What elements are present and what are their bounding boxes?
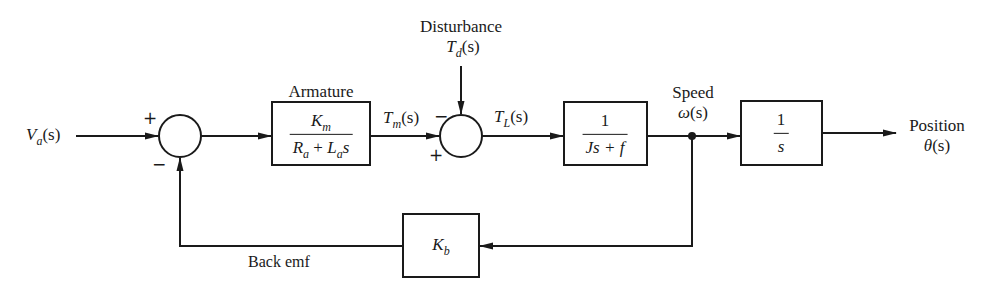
disturbance-signal-label: Td(s) <box>446 38 479 55</box>
km-symbol: K <box>311 111 322 130</box>
fraction-bar <box>290 133 353 134</box>
armature-label: Armature <box>288 83 353 100</box>
fraction-bar <box>583 133 628 134</box>
speed-signal-label: ω(s) <box>678 104 708 121</box>
integrator-denominator: s <box>775 137 788 157</box>
td-arg: (s) <box>462 37 480 56</box>
armature-transfer-function: Km Ra + Las <box>290 111 353 157</box>
disturbance-label: Disturbance <box>420 18 502 35</box>
s-variable: s <box>343 138 350 157</box>
integrator-transfer-function: 1 s <box>774 110 789 156</box>
ra-subscript: a <box>303 147 309 161</box>
la-symbol: L <box>327 138 336 157</box>
input-label: Va(s) <box>26 126 60 143</box>
sj1-minus-sign: − <box>152 156 166 173</box>
summing-junction-1 <box>159 115 201 157</box>
plus-operator: + <box>309 138 327 157</box>
tl-arg: (s) <box>510 107 528 126</box>
diagram-lines <box>0 0 998 293</box>
back-emf-arrow <box>180 158 403 246</box>
km-subscript: m <box>322 120 331 134</box>
input-symbol: V <box>26 125 36 144</box>
input-arg: (s) <box>42 125 60 144</box>
sj1-plus-sign: + <box>143 110 157 127</box>
load-numerator: 1 <box>598 111 613 131</box>
tl-subscript: L <box>503 116 510 130</box>
tm-subscript: m <box>392 117 401 131</box>
tm-arg: (s) <box>401 108 419 127</box>
tl-signal-label: TL(s) <box>494 108 528 125</box>
kb-subscript: b <box>444 244 450 258</box>
sj2-plus-sign: + <box>429 147 443 164</box>
armature-denominator: Ra + Las <box>290 138 353 158</box>
sj2-minus-sign: − <box>434 108 448 125</box>
armature-numerator: Km <box>308 111 334 131</box>
back-emf-label: Back emf <box>248 254 310 270</box>
omega-arg: (s) <box>690 103 708 122</box>
output-label: Position <box>909 117 965 134</box>
integrator-numerator: 1 <box>774 110 789 130</box>
speed-label: Speed <box>672 84 714 101</box>
kb-symbol: K <box>432 235 443 254</box>
load-denominator: Js + f <box>583 138 628 158</box>
load-transfer-function: 1 Js + f <box>583 111 628 157</box>
input-subscript: a <box>36 134 42 148</box>
td-subscript: d <box>456 46 462 60</box>
ra-symbol: R <box>293 138 303 157</box>
fraction-bar <box>774 132 789 133</box>
la-subscript: a <box>337 147 343 161</box>
theta-arg: (s) <box>932 136 950 155</box>
branch-point <box>688 132 696 140</box>
output-signal-label: θ(s) <box>924 137 950 154</box>
omega-symbol: ω <box>678 103 690 122</box>
feedback-gain-label: Kb <box>432 236 449 253</box>
tm-signal-label: Tm(s) <box>383 109 419 126</box>
